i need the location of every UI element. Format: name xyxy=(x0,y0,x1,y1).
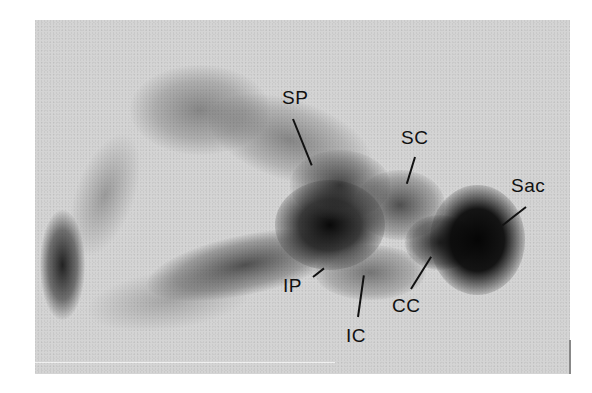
radiograph-image xyxy=(35,20,570,374)
label-sac: Sac xyxy=(511,176,545,195)
label-ic: IC xyxy=(346,326,366,345)
label-ip: IP xyxy=(283,276,302,295)
saccule-region xyxy=(430,185,525,295)
scan-line-artifact xyxy=(35,362,335,363)
left-dense-region xyxy=(40,210,85,320)
label-cc: CC xyxy=(392,296,420,315)
image-edge-mark xyxy=(569,340,571,374)
label-sp: SP xyxy=(282,88,308,107)
label-sc: SC xyxy=(401,128,428,147)
